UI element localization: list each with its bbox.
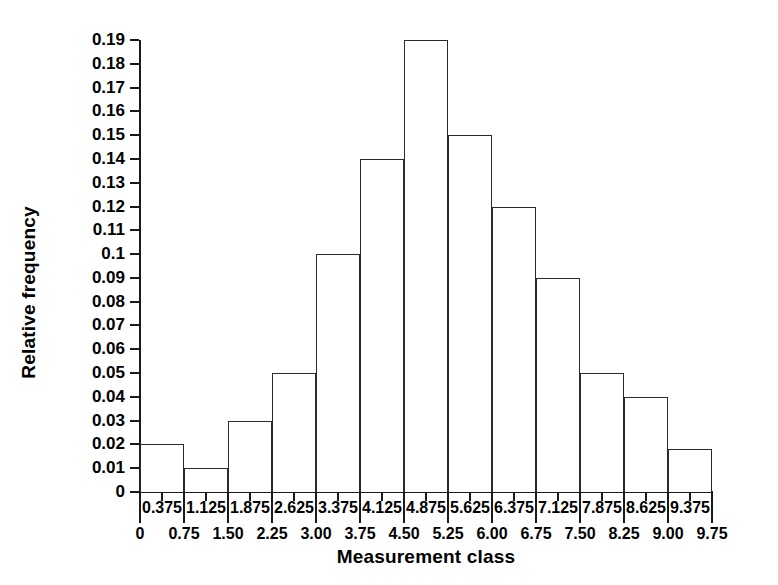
y-axis-tick-mark: [130, 324, 139, 326]
x-axis-boundary-line: [447, 493, 449, 523]
y-axis-tick-label: 0.09: [92, 267, 125, 288]
x-axis-boundary-label: 1.50: [212, 525, 243, 543]
x-axis-boundary-label: 0: [136, 525, 145, 543]
x-axis-boundary-line: [491, 493, 493, 523]
histogram-bar: [184, 468, 228, 492]
histogram-bar: [624, 397, 668, 492]
x-axis-boundary-label: 9.00: [652, 525, 683, 543]
histogram-bar: [668, 449, 712, 492]
histogram-bar: [228, 421, 272, 492]
x-axis-boundary-label: 8.25: [608, 525, 639, 543]
x-axis-boundary-label: 2.25: [256, 525, 287, 543]
x-axis-midpoint-label: 1.875: [230, 499, 270, 517]
y-axis-tick-label: 0.06: [92, 338, 125, 359]
x-axis-midpoint-label: 4.875: [406, 499, 446, 517]
histogram-bar: [272, 373, 316, 492]
x-axis-midpoint-label: 7.125: [538, 499, 578, 517]
y-axis-tick-mark: [130, 229, 139, 231]
x-axis-boundary-line: [315, 493, 317, 523]
x-axis-boundary-label: 6.00: [476, 525, 507, 543]
x-axis-boundary-line: [623, 493, 625, 523]
y-axis-tick-label: 0: [116, 481, 125, 502]
x-axis-midpoint-label: 6.375: [494, 499, 534, 517]
y-axis-tick-label: 0.01: [92, 457, 125, 478]
histogram-bar: [140, 444, 184, 492]
x-axis-boundary-label: 7.50: [564, 525, 595, 543]
x-axis-midpoint-label: 1.125: [186, 499, 226, 517]
y-axis-tick-label: 0.11: [93, 219, 125, 240]
x-axis-boundary-line: [227, 493, 229, 523]
x-axis-title: Measurement class: [140, 546, 712, 568]
y-axis-tick-mark: [130, 87, 139, 89]
x-axis-midpoint-label: 7.875: [582, 499, 622, 517]
x-axis-boundary-line: [183, 493, 185, 523]
histogram-bar: [404, 40, 448, 492]
y-axis-tick-label: 0.04: [92, 386, 125, 407]
y-axis-tick-mark: [130, 491, 139, 493]
y-axis-tick-label: 0.14: [92, 148, 125, 169]
x-axis-midpoint-label: 8.625: [626, 499, 666, 517]
x-axis-boundary-label: 9.75: [696, 525, 727, 543]
x-axis-boundary-label: 6.75: [520, 525, 551, 543]
y-axis-tick-label: 0.12: [92, 196, 125, 217]
x-axis-boundary-label: 4.50: [388, 525, 419, 543]
y-axis-tick-label: 0.03: [92, 410, 125, 431]
y-axis-tick-mark: [130, 182, 139, 184]
x-axis-boundary-label: 3.75: [344, 525, 375, 543]
y-axis-tick-label: 0.05: [92, 362, 125, 383]
x-axis-tick-group: 0.3751.1251.8752.6253.3754.1254.8755.625…: [140, 493, 713, 585]
y-axis-tick-label: 0.17: [92, 77, 125, 98]
x-axis-midpoint-label: 5.625: [450, 499, 490, 517]
histogram-bar: [360, 159, 404, 492]
histogram-bar: [448, 135, 492, 492]
x-axis-boundary-line: [359, 493, 361, 523]
x-axis-boundary-label: 5.25: [432, 525, 463, 543]
y-axis-tick-mark: [130, 348, 139, 350]
x-axis-boundary-label: 0.75: [168, 525, 199, 543]
x-axis-boundary-line: [535, 493, 537, 523]
histogram-bar: [536, 278, 580, 492]
x-axis-boundary-line: [579, 493, 581, 523]
histogram-bar: [316, 254, 360, 492]
y-axis-tick-mark: [130, 420, 139, 422]
histogram-bar: [580, 373, 624, 492]
x-axis-boundary-line: [667, 493, 669, 523]
y-axis-tick-label: 0.19: [92, 29, 125, 50]
y-axis-tick-mark: [130, 396, 139, 398]
y-axis-tick-label: 0.07: [92, 314, 125, 335]
plot-area: [140, 40, 712, 492]
y-axis-tick-group: 0.190.180.170.160.150.140.130.120.110.10…: [0, 0, 139, 585]
y-axis-tick-label: 0.16: [92, 100, 125, 121]
x-axis-boundary-label: 3.00: [300, 525, 331, 543]
y-axis-tick-label: 0.18: [92, 53, 125, 74]
x-axis-midpoint-label: 3.375: [318, 499, 358, 517]
x-axis-boundary-line: [139, 493, 141, 523]
x-axis-boundary-line: [403, 493, 405, 523]
x-axis-midpoint-label: 4.125: [362, 499, 402, 517]
x-axis-midpoint-label: 0.375: [142, 499, 182, 517]
y-axis-tick-mark: [130, 206, 139, 208]
y-axis-tick-mark: [130, 467, 139, 469]
y-axis-tick-mark: [130, 134, 139, 136]
histogram-bar: [492, 207, 536, 492]
y-axis-tick-label: 0.13: [92, 172, 125, 193]
x-axis-boundary-line: [271, 493, 273, 523]
y-axis-tick-mark: [130, 39, 139, 41]
y-axis-tick-label: 0.1: [101, 243, 125, 264]
y-axis-tick-mark: [130, 443, 139, 445]
x-axis-boundary-line: [711, 493, 713, 523]
histogram-figure: Relative frequency 0.190.180.170.160.150…: [0, 0, 778, 585]
y-axis-tick-label: 0.08: [92, 291, 125, 312]
y-axis-tick-mark: [130, 110, 139, 112]
y-axis-tick-mark: [130, 63, 139, 65]
y-axis-tick-mark: [130, 301, 139, 303]
y-axis-tick-mark: [130, 158, 139, 160]
y-axis-tick-mark: [130, 253, 139, 255]
y-axis-tick-mark: [130, 372, 139, 374]
x-axis-midpoint-label: 9.375: [670, 499, 710, 517]
y-axis-tick-mark: [130, 277, 139, 279]
y-axis-tick-label: 0.15: [92, 124, 125, 145]
y-axis-tick-label: 0.02: [92, 433, 125, 454]
x-axis-midpoint-label: 2.625: [274, 499, 314, 517]
